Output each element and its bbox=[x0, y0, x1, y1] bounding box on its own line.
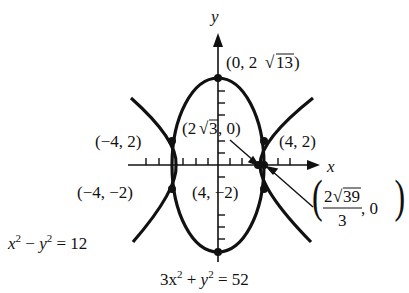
svg-text:): ) bbox=[294, 53, 300, 72]
y-axis-arrow-icon bbox=[213, 33, 223, 47]
svg-text:2: 2 bbox=[324, 187, 333, 206]
svg-text:(2: (2 bbox=[182, 119, 196, 138]
hyperbola-equation: x2 − y2 = 12 bbox=[7, 232, 87, 253]
label-q3: (−4, −2) bbox=[77, 183, 133, 202]
svg-text:39: 39 bbox=[343, 187, 360, 206]
point-ellipse-top bbox=[214, 74, 222, 82]
label-q1: (4, 2) bbox=[279, 132, 316, 151]
svg-text:√: √ bbox=[199, 119, 209, 138]
point-q1 bbox=[260, 137, 268, 145]
svg-text:): ) bbox=[394, 171, 405, 222]
label-ellipse-top: (0, 2 √ 13 ) bbox=[226, 53, 300, 72]
svg-text:3: 3 bbox=[209, 119, 218, 138]
svg-text:, 0: , 0 bbox=[361, 199, 378, 218]
point-ellipse-bottom bbox=[214, 248, 222, 256]
point-q4 bbox=[260, 185, 268, 193]
svg-text:√: √ bbox=[265, 53, 275, 72]
svg-text:√: √ bbox=[333, 187, 343, 206]
point-q2 bbox=[168, 137, 176, 145]
ellipse-equation: 3x2 + y2 = 52 bbox=[160, 268, 249, 289]
label-q2: (−4, 2) bbox=[95, 132, 141, 151]
point-q3 bbox=[168, 185, 176, 193]
label-ellipse-vertex: (2 √ 3 , 0) bbox=[182, 119, 241, 138]
svg-text:13: 13 bbox=[276, 53, 293, 72]
hyperbola-right-branch bbox=[260, 98, 313, 242]
svg-text:(0, 2: (0, 2 bbox=[226, 53, 257, 72]
y-axis-label: y bbox=[209, 7, 219, 26]
svg-text:, 0): , 0) bbox=[218, 119, 241, 138]
label-hyperbola-vertex: ( 2 √ 39 3 , 0 ) bbox=[312, 171, 405, 230]
x-axis-arrow-icon bbox=[307, 160, 320, 170]
svg-text:(: ( bbox=[312, 171, 323, 222]
conic-diagram: y x (0, 2 √ 13 ) (2 √ 3 , 0) (−4, 2) (4,… bbox=[0, 0, 409, 293]
hyperbola-left-branch bbox=[131, 98, 176, 242]
label-q4: (4, −2) bbox=[192, 183, 238, 202]
arrow-head-icon bbox=[267, 167, 277, 174]
x-axis-label: x bbox=[326, 157, 335, 176]
svg-text:3: 3 bbox=[338, 211, 347, 230]
